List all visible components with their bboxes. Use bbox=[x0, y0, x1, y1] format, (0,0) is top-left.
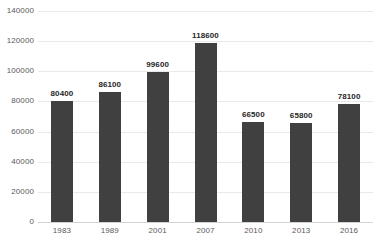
bar bbox=[290, 123, 312, 222]
plot-area: 804008610099600118600665006580078100 bbox=[38, 11, 373, 222]
bar bbox=[195, 43, 217, 222]
y-tick-label: 100000 bbox=[0, 67, 34, 75]
y-tick-label: 120000 bbox=[0, 37, 34, 45]
bar-group: 65800 bbox=[290, 11, 312, 222]
bar-value-label: 66500 bbox=[242, 111, 265, 119]
bar bbox=[147, 72, 169, 222]
bar-chart: 020000400006000080000100000120000140000 … bbox=[0, 0, 377, 252]
y-tick-label: 80000 bbox=[0, 97, 34, 105]
x-tick-label: 2013 bbox=[292, 226, 310, 235]
bar-value-label: 118600 bbox=[192, 32, 219, 40]
y-tick-label: 40000 bbox=[0, 158, 34, 166]
x-tick-label: 2016 bbox=[340, 226, 358, 235]
bar bbox=[99, 92, 121, 222]
axis-baseline bbox=[38, 222, 373, 223]
x-axis: 1983198920012007201020132016 bbox=[38, 226, 373, 246]
x-tick-label: 1989 bbox=[101, 226, 119, 235]
bar-group: 80400 bbox=[51, 11, 73, 222]
bar bbox=[338, 104, 360, 222]
bar-value-label: 65800 bbox=[290, 112, 313, 120]
y-axis: 020000400006000080000100000120000140000 bbox=[0, 0, 34, 252]
y-tick-label: 60000 bbox=[0, 128, 34, 136]
bar-group: 86100 bbox=[99, 11, 121, 222]
x-tick-label: 2010 bbox=[244, 226, 262, 235]
bar-group: 66500 bbox=[242, 11, 264, 222]
y-tick-label: 0 bbox=[0, 218, 34, 226]
x-tick-label: 2007 bbox=[196, 226, 214, 235]
x-tick-label: 2001 bbox=[149, 226, 167, 235]
bar-value-label: 80400 bbox=[51, 90, 74, 98]
y-tick-label: 140000 bbox=[0, 7, 34, 15]
y-tick-label: 20000 bbox=[0, 188, 34, 196]
bar bbox=[242, 122, 264, 222]
x-tick-label: 1983 bbox=[53, 226, 71, 235]
bar bbox=[51, 101, 73, 222]
bar-value-label: 99600 bbox=[146, 61, 169, 69]
bar-group: 99600 bbox=[147, 11, 169, 222]
bar-value-label: 86100 bbox=[98, 81, 121, 89]
bar-group: 118600 bbox=[195, 11, 217, 222]
bar-group: 78100 bbox=[338, 11, 360, 222]
bar-value-label: 78100 bbox=[338, 93, 361, 101]
